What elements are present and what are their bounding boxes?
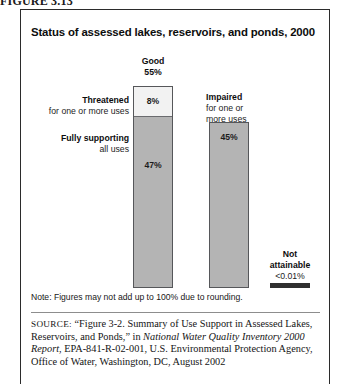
- source-kicker: SOURCE:: [31, 319, 75, 329]
- chart-note: Note: Figures may not add up to 100% due…: [31, 292, 243, 302]
- callout-impaired: Impaired for one or more uses: [206, 92, 274, 125]
- callout-good: Good 55%: [123, 56, 183, 78]
- callout-threatened: Threatened for one or more uses: [28, 95, 129, 117]
- callout-not-attainable-value: <0.01%: [262, 271, 318, 283]
- callout-impaired-sub-line1: for one or: [206, 103, 274, 114]
- figure-label: FIGURE 3.13: [0, 0, 73, 9]
- source-block: SOURCE: “Figure 3-2. Summary of Use Supp…: [31, 318, 325, 369]
- callout-good-head: Good: [123, 56, 183, 67]
- callout-not-attainable: Not attainable <0.01%: [262, 249, 318, 283]
- bar-good: 8% 47%: [133, 86, 173, 288]
- bar-label-threatened-pct: 8%: [134, 96, 172, 106]
- callout-impaired-head: Impaired: [206, 92, 274, 103]
- bar-not-attainable: [270, 283, 310, 288]
- callout-fully-head: Fully supporting: [28, 133, 129, 144]
- callout-not-attainable-head: Not: [262, 249, 318, 260]
- bar-label-impaired-pct: 45%: [210, 132, 248, 142]
- bar-impaired: 45%: [209, 122, 249, 288]
- callout-threatened-head: Threatened: [28, 95, 129, 106]
- callout-good-value: 55%: [123, 67, 183, 78]
- callout-not-attainable-head2: attainable: [262, 260, 318, 271]
- callout-fully-supporting: Fully supporting all uses: [28, 133, 129, 155]
- source-text-part2: , EPA-841-R-02-001, U.S. Environmental P…: [31, 343, 313, 367]
- callout-fully-sub: all uses: [28, 144, 129, 155]
- callout-threatened-sub: for one or more uses: [28, 106, 129, 117]
- source-divider: [31, 312, 320, 313]
- bar-label-fully-pct: 47%: [134, 160, 172, 170]
- bar-segment-threatened: 8%: [134, 87, 172, 117]
- bar-segment-fully-supporting: 47%: [134, 117, 172, 287]
- chart-plot-area: Good 55% Threatened for one or more uses…: [20, 9, 330, 299]
